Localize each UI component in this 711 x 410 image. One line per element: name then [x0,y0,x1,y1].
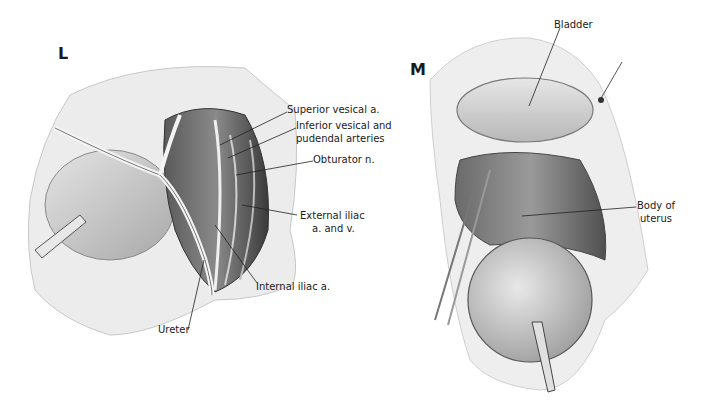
label-body-of-uterus-line2: uterus [636,213,676,225]
panel-letter-l: L [58,44,68,63]
label-bladder: Bladder [554,19,593,31]
label-external-iliac-line1: External iliac [300,210,365,222]
label-external-iliac-line2: a. and v. [312,223,355,235]
panel-l-illustration: L Superior vesical a. Inferior vesical a… [0,0,360,410]
label-internal-iliac-artery: Internal iliac a. [256,281,330,293]
panel-m-illustration: M Bladder Body of uterus [360,0,711,410]
label-ureter: Ureter [158,324,190,336]
panel-letter-m: M [410,60,426,79]
pelvic-dissection-drawing-l [0,0,360,410]
label-body-of-uterus-line1: Body of [636,200,676,212]
